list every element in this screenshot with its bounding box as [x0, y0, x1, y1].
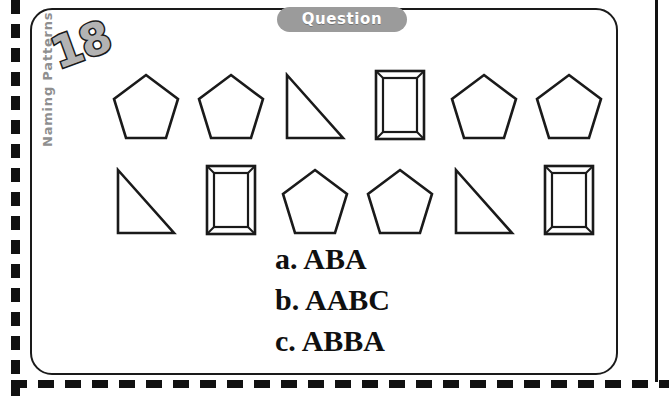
question-number-text: 18: [33, 4, 128, 86]
answer-option-c[interactable]: c. ABBA: [275, 320, 575, 361]
shape-row-1: [110, 50, 605, 142]
pentagon-icon: [196, 72, 266, 142]
shape-cell: [448, 145, 520, 237]
worksheet-page: Question 18 Naming Patterns: [0, 0, 669, 396]
pentagon-icon: [280, 167, 350, 237]
right-triangle-icon: [114, 167, 178, 237]
shape-row-2: [110, 145, 605, 237]
answer-options: a. ABA b. AABC c. ABBA: [275, 238, 575, 361]
shape-cell: [364, 145, 436, 237]
question-number-badge: 18: [41, 16, 121, 74]
question-banner: Question: [277, 7, 407, 32]
dashed-cut-line-bottom: [11, 380, 669, 388]
shape-cell: [448, 50, 520, 142]
shape-cell: [533, 50, 605, 142]
shape-cell: [195, 145, 267, 237]
shape-cell: [110, 145, 182, 237]
right-triangle-icon: [452, 167, 516, 237]
shape-cell: [533, 145, 605, 237]
page-edge-rule-right: [655, 0, 658, 382]
framed-rectangle-icon: [204, 163, 258, 237]
pentagon-icon: [449, 72, 519, 142]
right-triangle-icon: [283, 72, 347, 142]
dashed-cut-line-left: [11, 0, 20, 396]
shape-cell: [279, 145, 351, 237]
pentagon-icon: [534, 72, 604, 142]
shape-cell: [195, 50, 267, 142]
question-banner-label: Question: [302, 12, 383, 27]
shape-cell: [364, 50, 436, 142]
shape-cell: [279, 50, 351, 142]
answer-option-b[interactable]: b. AABC: [275, 279, 575, 320]
answer-option-a[interactable]: a. ABA: [275, 238, 575, 279]
pentagon-icon: [111, 72, 181, 142]
framed-rectangle-icon: [542, 163, 596, 237]
pentagon-icon: [365, 167, 435, 237]
framed-rectangle-icon: [373, 68, 427, 142]
